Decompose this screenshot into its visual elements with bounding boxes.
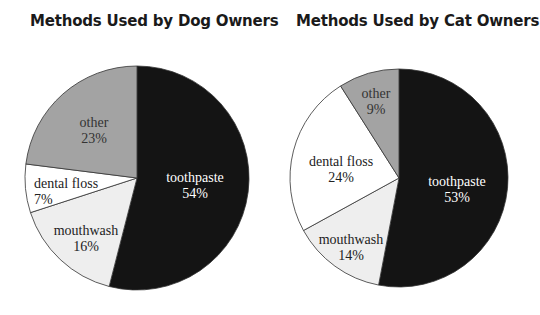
cat-pct-other: 9% — [367, 102, 386, 117]
dog-label-other: other — [80, 115, 109, 130]
cat-pct-toothpaste: 53% — [444, 190, 470, 205]
cat-pct-dental-floss: 24% — [328, 170, 354, 185]
dog-pct-other: 23% — [81, 131, 107, 146]
cat-label-toothpaste: toothpaste — [428, 174, 486, 189]
dog-pct-mouthwash: 16% — [73, 239, 99, 254]
dog-label-toothpaste: toothpaste — [166, 170, 224, 185]
cat-label-other: other — [362, 86, 391, 101]
dog-pct-toothpaste: 54% — [182, 186, 208, 201]
pie-charts: toothpaste 54% mouthwash 16% dental flos… — [0, 0, 540, 315]
dog-pct-dental-floss: 7% — [34, 192, 53, 207]
cat-pct-mouthwash: 14% — [338, 248, 364, 263]
dog-label-dental-floss: dental floss — [34, 176, 98, 191]
dog-label-mouthwash: mouthwash — [54, 223, 119, 238]
cat-label-mouthwash: mouthwash — [319, 232, 384, 247]
cat-label-dental-floss: dental floss — [309, 154, 373, 169]
